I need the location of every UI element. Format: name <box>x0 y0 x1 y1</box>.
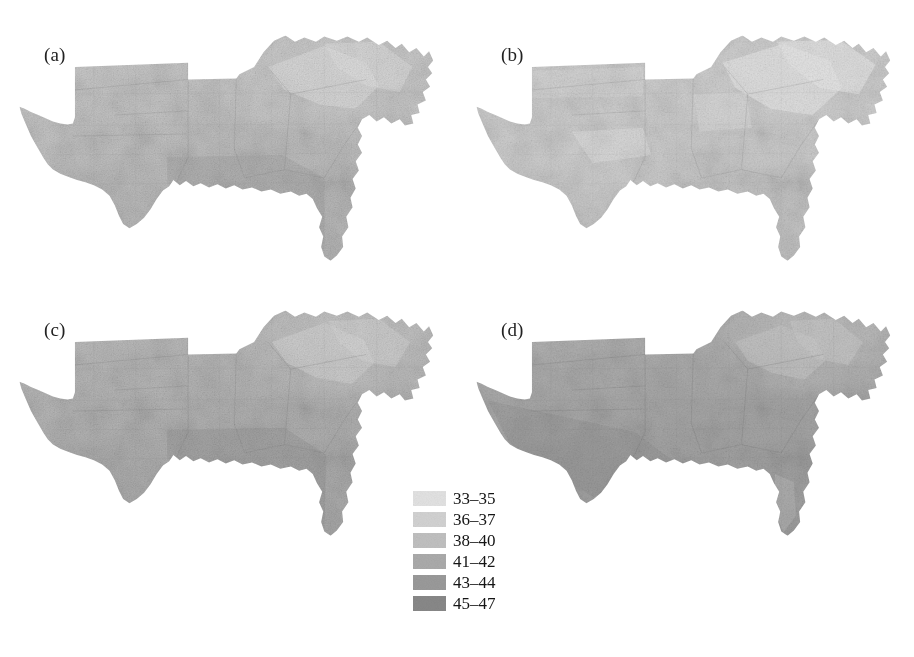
legend-label: 33–35 <box>453 490 496 507</box>
panel-b: (b) <box>457 18 914 293</box>
legend-swatch-texture <box>413 554 446 569</box>
map-b <box>467 28 907 286</box>
legend-swatch-41-42 <box>413 554 446 569</box>
legend-swatch-43-44 <box>413 575 446 590</box>
legend-label: 45–47 <box>453 595 496 612</box>
legend-swatch-texture <box>413 596 446 611</box>
legend-swatch-texture <box>413 575 446 590</box>
panel-c: (c) <box>0 293 457 568</box>
legend-swatch-36-37 <box>413 512 446 527</box>
map-a <box>10 28 450 286</box>
arkansas-light-patch <box>693 92 752 132</box>
legend-label: 38–40 <box>453 532 496 549</box>
legend-swatch-38-40 <box>413 533 446 548</box>
gulf-dark-zone <box>167 155 324 251</box>
legend-label: 41–42 <box>453 553 496 570</box>
legend-swatch-33-35 <box>413 491 446 506</box>
legend-swatch-45-47 <box>413 596 446 611</box>
legend-label: 43–44 <box>453 574 496 591</box>
legend-row: 38–40 <box>413 530 553 551</box>
figure-canvas: (a) <box>0 0 914 657</box>
legend-row: 41–42 <box>413 551 553 572</box>
legend-swatch-texture <box>413 491 446 506</box>
legend-label: 36–37 <box>453 511 496 528</box>
legend-row: 36–37 <box>413 509 553 530</box>
value-class-legend: 33–35 36–37 38–40 <box>413 488 553 614</box>
legend-row: 45–47 <box>413 593 553 614</box>
legend-swatch-texture <box>413 512 446 527</box>
panel-a: (a) <box>0 18 457 293</box>
gulf-dark-zone <box>167 428 326 529</box>
legend-swatch-texture <box>413 533 446 548</box>
map-c <box>10 303 450 561</box>
legend-row: 33–35 <box>413 488 553 509</box>
legend-row: 43–44 <box>413 572 553 593</box>
